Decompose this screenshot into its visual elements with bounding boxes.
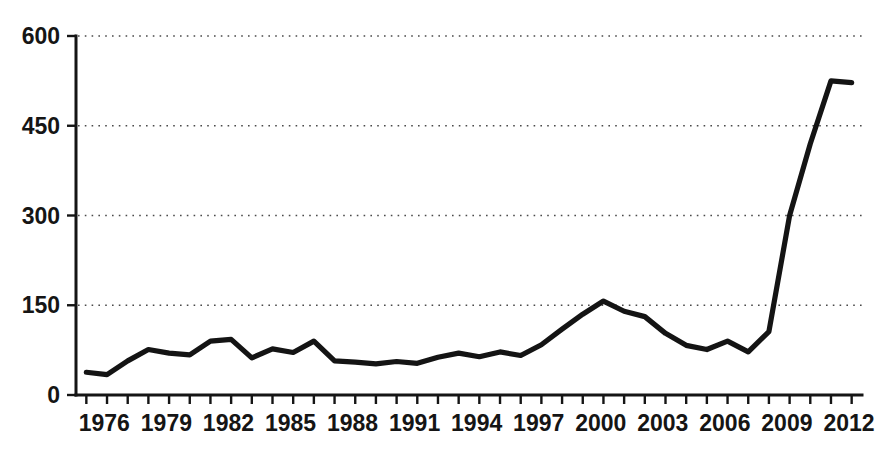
y-tick-label-300: 300 xyxy=(22,203,60,229)
x-tick-label-1997: 1997 xyxy=(513,410,564,436)
x-tick-label-1985: 1985 xyxy=(265,410,316,436)
x-tick-label-1991: 1991 xyxy=(389,410,440,436)
chart-background xyxy=(0,0,879,459)
y-tick-label-150: 150 xyxy=(22,292,60,318)
x-tick-label-1988: 1988 xyxy=(327,410,378,436)
line-chart: 0150300450600 19761979198219851988199119… xyxy=(0,0,879,459)
y-tick-label-0: 0 xyxy=(47,382,60,408)
x-tick-label-1976: 1976 xyxy=(79,410,130,436)
x-tick-label-1979: 1979 xyxy=(141,410,192,436)
x-tick-label-2003: 2003 xyxy=(637,410,688,436)
x-tick-label-2006: 2006 xyxy=(699,410,750,436)
x-tick-label-2000: 2000 xyxy=(575,410,626,436)
chart-container: 0150300450600 19761979198219851988199119… xyxy=(0,0,879,459)
y-tick-label-450: 450 xyxy=(22,113,60,139)
x-tick-label-1982: 1982 xyxy=(203,410,254,436)
y-tick-label-600: 600 xyxy=(22,23,60,49)
x-tick-label-1994: 1994 xyxy=(451,410,502,436)
x-tick-label-2009: 2009 xyxy=(761,410,812,436)
x-tick-label-2012: 2012 xyxy=(823,410,874,436)
